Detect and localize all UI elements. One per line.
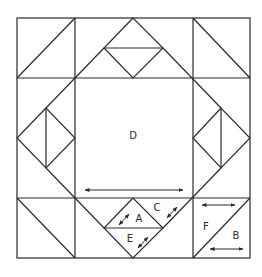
corner-top-left-diagonal bbox=[17, 18, 75, 78]
label-c: C bbox=[154, 202, 161, 213]
label-f: F bbox=[203, 221, 209, 232]
right-middle-unit bbox=[193, 108, 250, 168]
label-a: A bbox=[136, 213, 143, 224]
grain-arrow-c bbox=[167, 207, 177, 218]
top-middle-unit bbox=[104, 18, 163, 78]
corner-bottom-left-diagonal bbox=[17, 198, 75, 258]
label-d: D bbox=[129, 130, 137, 141]
grain-arrows bbox=[85, 190, 243, 249]
grain-arrow-a bbox=[119, 214, 129, 225]
label-e: E bbox=[127, 233, 133, 244]
quilt-block-diagram: D A C E F B bbox=[0, 0, 262, 277]
label-b: B bbox=[233, 230, 240, 241]
corner-top-right-diagonal bbox=[193, 18, 250, 78]
grain-arrow-e bbox=[138, 237, 148, 248]
left-middle-unit bbox=[17, 108, 75, 168]
